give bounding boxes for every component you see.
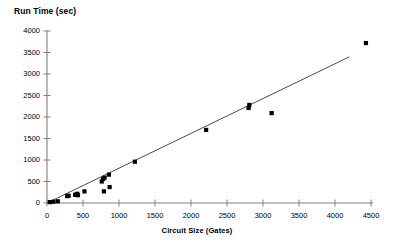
data-point-marker xyxy=(82,189,86,193)
data-point-marker xyxy=(270,111,274,115)
data-point-marker xyxy=(204,128,208,132)
data-point-marker xyxy=(103,176,107,180)
data-point-marker xyxy=(102,189,106,193)
data-point-marker xyxy=(48,200,52,204)
plot-area xyxy=(0,0,394,245)
data-point-marker xyxy=(56,199,60,203)
trend-line-path xyxy=(47,57,349,203)
x-axis-title: Circuit Size (Gates) xyxy=(0,226,394,235)
data-point-marker xyxy=(247,103,251,107)
data-point-marker xyxy=(133,160,137,164)
data-point-marker xyxy=(108,185,112,189)
axes xyxy=(44,31,374,207)
data-point-marker xyxy=(51,200,55,204)
scatter-chart: Run Time (sec) 4000350030002500200015001… xyxy=(0,0,394,245)
data-point-marker xyxy=(107,173,111,177)
data-point-marker xyxy=(67,194,71,198)
data-point-marker xyxy=(76,193,80,197)
data-point-marker xyxy=(364,41,368,45)
trend-line xyxy=(47,57,349,203)
